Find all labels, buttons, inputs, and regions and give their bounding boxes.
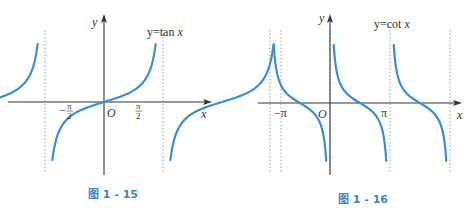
tan-origin-label: O [107, 106, 116, 120]
cot-tick-pos-pi: π [381, 106, 387, 120]
tan-figure: y x O y=tanx − π 2 π 2 图 1 - 15 [0, 14, 281, 201]
cot-y-label: y [318, 11, 325, 25]
cot-func-label: y=cotx [374, 17, 410, 31]
figures-canvas: y x O y=tanx − π 2 π 2 图 1 - 15 y x O y=… [0, 0, 469, 209]
tan-y-label: y [91, 15, 98, 29]
svg-text:π: π [136, 101, 141, 111]
svg-text:2: 2 [67, 111, 72, 121]
svg-text:π: π [67, 101, 72, 111]
tan-tick-neg-half-pi: − π 2 [59, 101, 73, 121]
svg-text:2: 2 [136, 111, 141, 121]
cot-figure: y x O y=cotx −π π 图 1 - 16 [258, 11, 463, 206]
tan-tick-pos-half-pi: π 2 [136, 101, 143, 121]
tan-func-label: y=tanx [147, 25, 183, 39]
cot-caption: 图 1 - 16 [338, 193, 388, 206]
cot-origin-label: O [318, 107, 327, 121]
cot-curves [274, 45, 447, 161]
svg-text:−: − [59, 103, 66, 117]
cot-x-label: x [456, 108, 463, 122]
cot-tick-neg-pi: −π [274, 106, 287, 120]
tan-caption: 图 1 - 15 [88, 188, 138, 201]
tan-x-label: x [200, 107, 207, 121]
